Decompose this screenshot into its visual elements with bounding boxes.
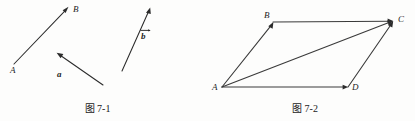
figure-7-1-caption: 图 7-1 bbox=[0, 100, 195, 115]
vector-a bbox=[57, 53, 103, 85]
label-vector-b: b bbox=[140, 32, 146, 41]
label-vector-a: a bbox=[57, 70, 62, 79]
figure-sheet: A B a b 图 7-1 bbox=[0, 0, 415, 121]
figure-7-1-drawing bbox=[0, 0, 195, 100]
vector-b bbox=[122, 8, 151, 71]
diagonal-ac bbox=[222, 21, 393, 87]
label-vertex-b: B bbox=[264, 11, 270, 20]
figure-7-1: A B a b 图 7-1 bbox=[0, 0, 195, 121]
vector-ab-shaft bbox=[14, 9, 66, 64]
label-point-a: A bbox=[10, 66, 16, 75]
edge-ad bbox=[222, 85, 348, 90]
label-point-b: B bbox=[73, 5, 79, 14]
vector-b-arrowhead bbox=[146, 8, 151, 15]
edge-bc bbox=[273, 19, 393, 24]
edge-ad-arrowhead bbox=[343, 85, 349, 90]
label-vertex-c: C bbox=[398, 15, 404, 24]
edge-dc-shaft bbox=[348, 24, 391, 87]
label-vertex-d: D bbox=[352, 83, 359, 92]
vector-a-shaft bbox=[59, 55, 103, 86]
figure-7-2-caption: 图 7-2 bbox=[195, 100, 415, 115]
edge-bc-shaft bbox=[273, 21, 390, 22]
label-vertex-a: A bbox=[212, 83, 218, 92]
label-vector-b-glyph: b bbox=[140, 32, 146, 41]
edge-dc bbox=[348, 21, 393, 87]
figure-7-2: A B C D 图 7-2 bbox=[195, 0, 415, 121]
figure-7-2-drawing bbox=[195, 0, 415, 100]
